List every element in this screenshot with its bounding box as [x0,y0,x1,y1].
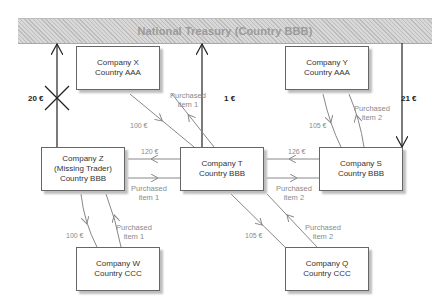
company-s-country: Country BBB [338,169,384,179]
money-label-z-t: 120 € [141,147,159,156]
money-label-s-t: 126 € [288,147,306,156]
money-label-y-s: 105 € [309,121,327,130]
company-q-country: Country CCC [303,269,351,279]
company-t-country: Country BBB [199,169,245,179]
company-z-country: Country BBB [60,174,106,184]
company-w-box: Company W Country CCC [76,247,160,291]
money-label-q-t: 105 € [245,231,263,240]
company-z-name: Company Z [62,154,103,164]
money-label-w-z: 100 € [66,231,84,240]
tax-label-z: 20 € [28,94,44,103]
company-s-box: Company S Country BBB [319,147,403,191]
tax-arrow-z-to-treasury [45,44,69,147]
company-w-name: Company W [96,259,140,269]
item-label-q-t: Purchaseditem 2 [305,223,341,241]
company-z-box: Company Z (Missing Trader) Country BBB [41,147,125,191]
company-x-box: Company X Country AAA [76,46,160,90]
money-label-x-t: 100 € [130,121,148,130]
company-y-box: Company Y Country AAA [285,46,369,90]
company-q-box: Company Q Country CCC [285,247,369,291]
tax-label-t: 1 € [224,94,235,103]
company-t-name: Company T [201,159,242,169]
item-label-x-t: Purchaseditem 1 [170,91,206,109]
company-y-name: Company Y [306,58,348,68]
item-label-s-t: Purchaseditem 2 [276,184,312,202]
company-x-name: Company X [97,58,139,68]
company-w-country: Country CCC [94,269,142,279]
company-x-country: Country AAA [95,68,141,78]
company-q-name: Company Q [306,259,349,269]
company-s-name: Company S [340,159,382,169]
item-label-z-t: Purchaseditem 1 [131,184,167,202]
item-label-y-s: Purchaseditem 2 [354,104,390,122]
company-z-note: (Missing Trader) [54,164,112,174]
item-label-w-z: Purchaseditem 1 [116,223,152,241]
tax-label-s: 21 € [401,94,417,103]
company-y-country: Country AAA [304,68,350,78]
company-t-box: Company T Country BBB [180,147,264,191]
